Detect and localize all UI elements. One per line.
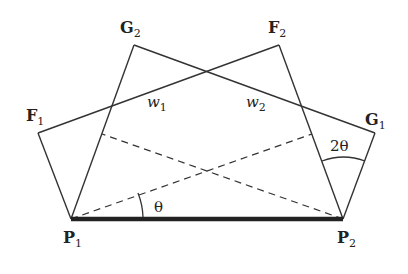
label-p1: P1 <box>63 228 82 250</box>
dashed-p1-diagonal <box>71 134 312 219</box>
edge-p1-f1 <box>38 133 71 219</box>
label-f2: F2 <box>268 18 286 40</box>
two-theta-arc <box>322 157 365 161</box>
label-g2: G2 <box>120 18 141 40</box>
geometry-figure: G2 F2 F1 G1 P1 P2 w1 w2 θ 2θ <box>0 0 408 274</box>
label-f1: F1 <box>26 106 44 128</box>
diagram-canvas: G2 F2 F1 G1 P1 P2 w1 w2 θ 2θ <box>0 0 408 274</box>
edge-f2-p2 <box>279 45 343 219</box>
label-w1: w1 <box>147 93 167 114</box>
dashed-p2-diagonal <box>102 134 343 219</box>
solid-edges <box>38 45 375 219</box>
label-two-theta: 2θ <box>330 137 349 155</box>
label-w2: w2 <box>246 93 266 114</box>
label-p2: P2 <box>337 228 356 250</box>
label-g1: G1 <box>365 110 386 132</box>
edge-f1-f2 <box>38 45 279 133</box>
edge-p1-g2 <box>71 45 134 219</box>
theta-arc <box>138 193 143 217</box>
edge-g2-g1 <box>134 45 375 133</box>
label-theta: θ <box>154 198 163 216</box>
dashed-edges <box>71 134 343 219</box>
